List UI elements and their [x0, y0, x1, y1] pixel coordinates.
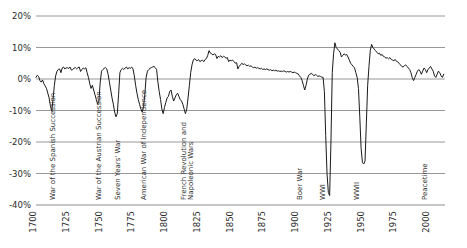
x-axis-tick-label: 1925 — [323, 211, 333, 233]
x-axis-tick-label: 1700 — [28, 211, 38, 233]
annotation-label: Peacetime — [421, 163, 429, 200]
x-axis-tick-label: 1775 — [126, 211, 136, 233]
annotation-label: Seven Years' War — [114, 140, 122, 200]
x-axis-tick-label: 1950 — [356, 211, 366, 233]
y-axis-tick-label: -40% — [9, 200, 31, 210]
annotation-label: War of the Austrian Succession — [95, 91, 103, 200]
x-axis-tick-label: 1975 — [388, 211, 398, 233]
x-axis-tick-label: 1900 — [290, 211, 300, 233]
annotation-label: WWI — [319, 184, 327, 200]
annotation-label: War of the Spanish Succession — [49, 93, 57, 200]
y-axis-tick-label: -10% — [9, 106, 31, 116]
x-axis-tick-label: 2000 — [421, 211, 431, 233]
y-axis-tick-label: 10% — [12, 43, 31, 53]
x-axis-tick-label: 1800 — [159, 211, 169, 233]
budget-balance-line-chart: 20%10%0%-10%-20%-30%-40% 170017251750177… — [0, 0, 467, 248]
annotation-label: Boer War — [296, 168, 304, 200]
annotation-label: Napoleonic Wars — [187, 141, 195, 200]
chart-container: 20%10%0%-10%-20%-30%-40% 170017251750177… — [0, 0, 467, 248]
x-axis-tick-labels: 1700172517501775180018251850187519001925… — [28, 211, 431, 233]
x-axis-tick-label: 1725 — [61, 211, 71, 233]
annotation-label: WWII — [353, 182, 361, 200]
x-axis-tick-label: 1750 — [94, 211, 104, 233]
annotation-label: American War of Independence — [140, 90, 148, 200]
war-annotations: War of the Spanish SuccessionWar of the … — [49, 90, 429, 200]
x-axis-tick-label: 1875 — [257, 211, 267, 233]
x-axis-tick-label: 1825 — [192, 211, 202, 233]
y-axis-tick-labels: 20%10%0%-10%-20%-30%-40% — [9, 11, 31, 210]
y-axis-tick-label: 20% — [12, 11, 31, 21]
y-axis-tick-label: -20% — [9, 137, 31, 147]
y-axis-tick-label: -30% — [9, 169, 31, 179]
y-axis-tick-label: 0% — [18, 74, 32, 84]
x-axis-tick-label: 1850 — [225, 211, 235, 233]
